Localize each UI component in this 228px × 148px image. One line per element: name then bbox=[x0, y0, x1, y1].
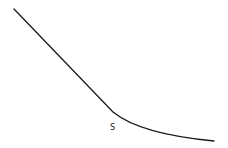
knee-point-label: S bbox=[110, 124, 115, 132]
descending-curve bbox=[14, 9, 214, 141]
